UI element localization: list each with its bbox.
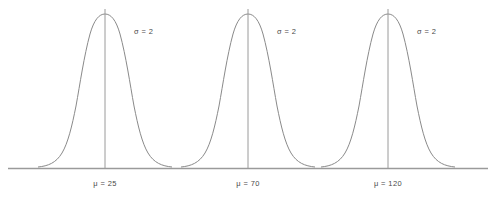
mu-label-curve-1: μ = 25 (93, 180, 117, 188)
normal-distributions-figure: σ = 2 σ = 2 σ = 2 μ = 25 μ = 70 μ = 120 (0, 0, 495, 201)
mu-label-curve-3: μ = 120 (374, 180, 402, 188)
sigma-label-curve-3: σ = 2 (417, 28, 436, 36)
sigma-label-curve-2: σ = 2 (277, 28, 296, 36)
mu-label-curve-2: μ = 70 (236, 180, 260, 188)
sigma-label-curve-1: σ = 2 (134, 28, 153, 36)
